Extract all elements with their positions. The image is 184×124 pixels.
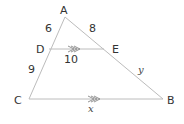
length-cb: x: [88, 103, 94, 114]
vertex-label-a: A: [60, 4, 68, 17]
length-eb: y: [137, 64, 144, 75]
vertex-label-e: E: [112, 43, 119, 56]
side-ab: [65, 17, 163, 99]
length-ae: 8: [89, 22, 96, 35]
vertex-label-d: D: [36, 43, 44, 56]
vertex-label-c: C: [14, 94, 22, 107]
length-dc: 9: [28, 63, 35, 76]
triangle-diagram: A D E C B 6 8 10 9 y x: [0, 0, 184, 124]
length-ad: 6: [45, 22, 52, 35]
length-de: 10: [64, 53, 78, 66]
vertex-label-b: B: [167, 94, 175, 107]
